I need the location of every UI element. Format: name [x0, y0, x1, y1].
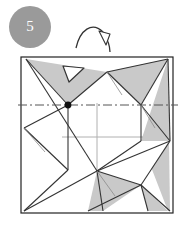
step-number-label: 5 — [26, 18, 34, 34]
origami-step-figure: 5 — [0, 0, 182, 227]
fold-arrow-curve-left — [76, 27, 103, 48]
step-number-badge: 5 — [9, 6, 51, 48]
pivot-dot-marker — [65, 102, 72, 109]
paper-sheet — [21, 57, 173, 213]
origami-diagram-canvas: 5 — [0, 0, 182, 227]
